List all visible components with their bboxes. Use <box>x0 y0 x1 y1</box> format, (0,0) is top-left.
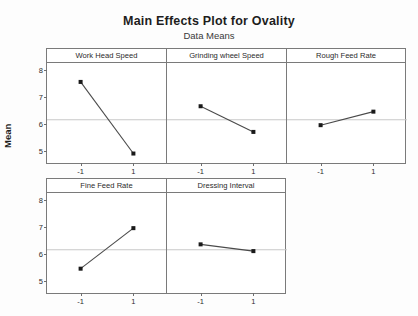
x-tick-label: -1 <box>197 297 204 306</box>
x-axis: -11 <box>167 293 285 309</box>
x-tick-mark <box>253 293 254 296</box>
x-tick-label: 1 <box>251 167 255 176</box>
data-point-marker <box>79 80 83 84</box>
series-svg <box>167 193 287 293</box>
panel-dressing-interval: Dressing Interval-11 <box>166 178 286 294</box>
y-axis: 8765 <box>29 192 47 292</box>
x-tick-label: -1 <box>317 167 324 176</box>
chart-subtitle: Data Means <box>0 30 418 41</box>
x-axis: -11 <box>287 163 405 179</box>
y-tick-label: 7 <box>39 93 43 102</box>
panel-rough-feed-rate: Rough Feed Rate-11 <box>286 48 406 164</box>
x-tick-mark <box>81 163 82 166</box>
panel-title: Dressing Interval <box>167 179 285 193</box>
series-line <box>81 82 134 154</box>
data-point-marker <box>131 226 135 230</box>
data-point-marker <box>251 249 255 253</box>
data-point-marker <box>319 123 323 127</box>
data-point-marker <box>199 242 203 246</box>
series-svg <box>47 63 167 163</box>
x-tick-mark <box>201 163 202 166</box>
panel-title: Work Head Speed <box>47 49 166 63</box>
chart-title: Main Effects Plot for Ovality <box>0 14 418 28</box>
x-tick-label: -1 <box>197 167 204 176</box>
x-tick-label: 1 <box>371 167 375 176</box>
data-point-marker <box>79 267 83 271</box>
y-tick-label: 8 <box>39 196 43 205</box>
y-tick-label: 8 <box>39 66 43 75</box>
y-axis: 8765 <box>29 62 47 162</box>
series-svg <box>47 193 167 293</box>
x-tick-label: 1 <box>131 297 135 306</box>
y-tick-label: 7 <box>39 223 43 232</box>
y-tick-label: 5 <box>39 277 43 286</box>
panel-row-top: Work Head Speed8765-11Grinding wheel Spe… <box>46 48 406 164</box>
plot-area: -11 <box>167 63 286 163</box>
x-axis: -11 <box>47 293 166 309</box>
data-point-marker <box>131 152 135 156</box>
x-tick-label: -1 <box>77 167 84 176</box>
series-line <box>321 112 374 126</box>
data-point-marker <box>199 104 203 108</box>
y-tick-label: 6 <box>39 120 43 129</box>
x-tick-label: -1 <box>77 297 84 306</box>
y-axis-label: Mean <box>2 124 13 148</box>
x-tick-mark <box>253 163 254 166</box>
x-tick-label: 1 <box>131 167 135 176</box>
main-effects-chart: Main Effects Plot for Ovality Data Means… <box>0 0 418 316</box>
panel-title: Grinding wheel Speed <box>167 49 286 63</box>
panel-work-head-speed: Work Head Speed8765-11 <box>46 48 166 164</box>
series-line <box>81 228 134 269</box>
series-svg <box>287 63 407 163</box>
data-point-marker <box>371 110 375 114</box>
x-tick-mark <box>321 163 322 166</box>
panel-fine-feed-rate: Fine Feed Rate8765-11 <box>46 178 166 294</box>
x-axis: -11 <box>47 163 166 179</box>
panel-title: Rough Feed Rate <box>287 49 405 63</box>
y-tick-label: 6 <box>39 250 43 259</box>
panel-row-bottom: Fine Feed Rate8765-11Dressing Interval-1… <box>46 178 286 294</box>
data-point-marker <box>251 130 255 134</box>
panel-title: Fine Feed Rate <box>47 179 166 193</box>
x-tick-mark <box>201 293 202 296</box>
series-svg <box>167 63 287 163</box>
x-tick-label: 1 <box>251 297 255 306</box>
y-tick-label: 5 <box>39 147 43 156</box>
x-tick-mark <box>373 163 374 166</box>
plot-area: -11 <box>167 193 285 293</box>
plot-area: -11 <box>47 193 166 293</box>
x-tick-mark <box>133 293 134 296</box>
x-tick-mark <box>81 293 82 296</box>
x-tick-mark <box>133 163 134 166</box>
x-axis: -11 <box>167 163 286 179</box>
plot-area: -11 <box>287 63 405 163</box>
panel-grinding-wheel-speed: Grinding wheel Speed-11 <box>166 48 286 164</box>
series-line <box>201 106 254 132</box>
plot-area: -11 <box>47 63 166 163</box>
